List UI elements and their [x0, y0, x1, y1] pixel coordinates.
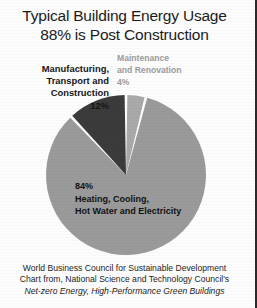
label-manufacturing-line-3: Construction [4, 87, 109, 99]
label-manufacturing-line-2: Transport and [4, 75, 109, 87]
source-citation: World Business Council for Sustainable D… [0, 263, 249, 297]
label-heating-line-2: Hot Water and Electricity [75, 205, 225, 218]
label-heating: 84% Heating, Cooling, Hot Water and Elec… [75, 180, 225, 218]
source-line-3: Net-zero Energy, High-Performance Green … [0, 286, 249, 297]
source-line-1: World Business Council for Sustainable D… [0, 263, 249, 274]
chart-image: Typical Building Energy Usage 88% is Pos… [0, 0, 257, 308]
label-maintenance: Maintenance and Renovation 4% [117, 52, 209, 88]
label-manufacturing-value: 12% [4, 100, 109, 112]
source-line-2: Chart from, National Science and Technol… [0, 274, 249, 285]
label-manufacturing-line-1: Manufacturing, [4, 63, 109, 75]
label-maintenance-value: 4% [117, 76, 209, 88]
label-manufacturing: Manufacturing, Transport and Constructio… [4, 63, 109, 112]
label-maintenance-line-1: Maintenance [117, 52, 209, 64]
pie-chart-svg [0, 0, 249, 308]
label-heating-value: 84% [75, 180, 225, 193]
pie-chart [0, 0, 249, 308]
label-heating-line-1: Heating, Cooling, [75, 193, 225, 206]
pie-slice-heating [46, 98, 206, 255]
label-maintenance-line-2: and Renovation [117, 64, 209, 76]
